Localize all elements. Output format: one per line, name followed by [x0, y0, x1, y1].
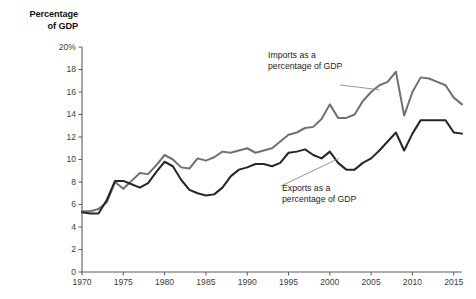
y-tick-label: 10: [42, 155, 76, 164]
x-tick-label: 2015: [434, 278, 474, 287]
x-tick-label: 1985: [186, 278, 226, 287]
x-tick-label: 2010: [392, 278, 432, 287]
x-tick-label: 1975: [103, 278, 143, 287]
annotation-exports: Exports as a percentage of GDP: [282, 183, 356, 204]
x-tick-label: 1990: [227, 278, 267, 287]
annotation-imports: Imports as a percentage of GDP: [268, 50, 342, 71]
x-tick-label: 1995: [269, 278, 309, 287]
chart-container: Percentage of GDP 20%181614121086420 197…: [0, 0, 476, 299]
leader-line-exports: [281, 158, 339, 186]
y-tick-label: 20%: [42, 43, 76, 52]
data-series: [82, 72, 462, 214]
y-tick-label: 6: [42, 200, 76, 209]
leader-line-imports: [340, 85, 379, 90]
x-tick-label: 1980: [145, 278, 185, 287]
y-axis-title: Percentage of GDP: [6, 9, 78, 32]
series-line: [82, 72, 462, 212]
y-tick-label: 0: [42, 268, 76, 277]
y-tick-label: 12: [42, 133, 76, 142]
y-tick-label: 18: [42, 65, 76, 74]
y-tick-label: 14: [42, 110, 76, 119]
y-tick-label: 8: [42, 178, 76, 187]
y-tick-label: 2: [42, 245, 76, 254]
y-tick-label: 16: [42, 88, 76, 97]
x-tick-label: 1970: [62, 278, 102, 287]
x-tick-label: 2005: [351, 278, 391, 287]
x-tick-label: 2000: [310, 278, 350, 287]
y-tick-label: 4: [42, 223, 76, 232]
series-line: [82, 120, 462, 213]
